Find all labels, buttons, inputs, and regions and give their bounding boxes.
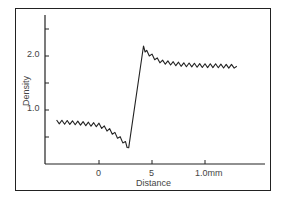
x-tick-label-0: 0 — [96, 168, 101, 178]
y-axis-label: Density — [21, 76, 31, 106]
x-tick-label-10: 1.0mm — [195, 168, 223, 178]
chart-plot — [0, 0, 283, 206]
density-curve — [57, 46, 237, 148]
x-tick-label-5: 5 — [149, 168, 154, 178]
x-axis-label: Distance — [136, 178, 171, 188]
y-tick-label-2: 2.0 — [27, 49, 40, 59]
